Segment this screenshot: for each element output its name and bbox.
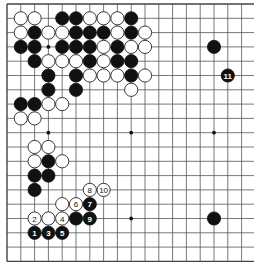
black-stone [69, 212, 82, 225]
black-stone [42, 169, 55, 182]
white-stone [28, 12, 41, 25]
white-stone [138, 26, 151, 39]
white-stone [28, 112, 41, 125]
white-stone-icon [97, 55, 110, 68]
move-number-label: 11 [224, 72, 233, 81]
white-stone-icon [138, 40, 151, 53]
white-stone [56, 98, 69, 111]
white-stone [97, 40, 110, 53]
black-stone-icon [83, 40, 96, 53]
go-board: 1181067249135 [0, 0, 254, 273]
black-stone [42, 155, 55, 168]
white-stone [28, 155, 41, 168]
white-stone-icon [42, 140, 55, 153]
white-stone [42, 140, 55, 153]
black-stone-icon [111, 55, 124, 68]
black-stone [56, 12, 69, 25]
white-stone [111, 26, 124, 39]
black-stone-icon [125, 69, 138, 82]
black-stone [28, 26, 41, 39]
move-number-label: 7 [88, 200, 93, 209]
black-stone-icon [69, 83, 82, 96]
move-number-label: 10 [99, 186, 108, 195]
black-stone-icon [125, 12, 138, 25]
white-stone-icon [28, 140, 41, 153]
black-stone-icon [42, 69, 55, 82]
white-stone [56, 155, 69, 168]
white-stone-icon [56, 198, 69, 211]
white-stone-icon [83, 69, 96, 82]
white-stone: 6 [69, 198, 82, 211]
black-stone-icon [14, 40, 27, 53]
black-stone-icon [56, 40, 69, 53]
black-stone [125, 69, 138, 82]
white-stone-icon [97, 69, 110, 82]
white-stone [56, 55, 69, 68]
white-stone [28, 140, 41, 153]
black-stone-icon [69, 26, 82, 39]
move-number-label: 5 [60, 229, 65, 238]
white-stone-icon [42, 98, 55, 111]
black-stone-icon [42, 155, 55, 168]
black-stone-icon [111, 40, 124, 53]
white-stone-icon [138, 69, 151, 82]
white-stone [14, 12, 27, 25]
black-stone [28, 169, 41, 182]
black-stone-icon [207, 212, 220, 225]
black-stone [69, 83, 82, 96]
black-stone-icon [69, 69, 82, 82]
black-stone-icon [125, 26, 138, 39]
move-number-label: 1 [32, 229, 37, 238]
black-stone [14, 98, 27, 111]
white-stone-icon [69, 55, 82, 68]
white-stone [56, 26, 69, 39]
white-stone [14, 26, 27, 39]
white-stone-icon [28, 112, 41, 125]
black-stone-icon [207, 40, 220, 53]
white-stone [42, 98, 55, 111]
white-stone: 8 [83, 183, 96, 196]
black-stone [28, 98, 41, 111]
black-stone [56, 40, 69, 53]
white-stone [97, 12, 110, 25]
move-number-label: 2 [32, 215, 37, 224]
white-stone [42, 26, 55, 39]
move-number-label: 6 [74, 200, 79, 209]
black-stone-icon [56, 12, 69, 25]
star-point [47, 131, 51, 135]
black-stone-icon [69, 212, 82, 225]
black-stone [83, 26, 96, 39]
black-stone: 7 [83, 198, 96, 211]
black-stone [69, 12, 82, 25]
white-stone [111, 12, 124, 25]
black-stone-icon [28, 26, 41, 39]
white-stone-icon [14, 26, 27, 39]
white-stone-icon [42, 26, 55, 39]
white-stone-icon [14, 12, 27, 25]
white-stone-icon [125, 40, 138, 53]
black-stone: 5 [56, 226, 69, 239]
white-stone-icon [56, 55, 69, 68]
white-stone [125, 83, 138, 96]
white-stone [97, 69, 110, 82]
white-stone [97, 55, 110, 68]
white-stone: 4 [56, 212, 69, 225]
white-stone: 2 [28, 212, 41, 225]
white-stone-icon [125, 83, 138, 96]
black-stone [28, 55, 41, 68]
white-stone-icon [138, 26, 151, 39]
black-stone: 1 [28, 226, 41, 239]
black-stone-icon [83, 26, 96, 39]
black-stone [125, 55, 138, 68]
white-stone [69, 55, 82, 68]
black-stone-icon [125, 55, 138, 68]
black-stone [111, 55, 124, 68]
black-stone-icon [14, 98, 27, 111]
white-stone-icon [14, 112, 27, 125]
move-number-label: 4 [60, 215, 65, 224]
white-stone [42, 55, 55, 68]
black-stone [69, 69, 82, 82]
black-stone [28, 40, 41, 53]
white-stone-icon [83, 12, 96, 25]
white-stone-icon [111, 69, 124, 82]
